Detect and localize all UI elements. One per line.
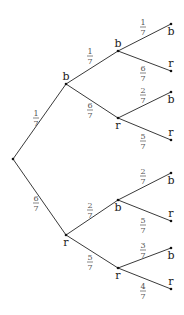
fraction-numerator: 6 bbox=[33, 194, 38, 203]
node-label-rbr: r bbox=[168, 207, 174, 220]
fraction-denominator: 7 bbox=[140, 226, 145, 235]
fraction-numerator: 6 bbox=[140, 64, 145, 73]
node-label-brb: b bbox=[167, 93, 174, 106]
fraction-numerator: 6 bbox=[87, 101, 92, 110]
probability-fraction-brb: 27 bbox=[140, 86, 146, 105]
node-label-r1: r bbox=[63, 236, 69, 249]
node-label-rb: b bbox=[114, 201, 121, 214]
node-dot-rrr bbox=[170, 288, 173, 291]
probability-fraction-rbr: 57 bbox=[140, 216, 146, 235]
probability-fraction-rb: 27 bbox=[87, 201, 93, 220]
probability-fraction-b1: 17 bbox=[33, 109, 39, 128]
probability-fraction-rr: 57 bbox=[87, 253, 93, 272]
fraction-numerator: 2 bbox=[140, 167, 145, 176]
node-dot-bb bbox=[117, 50, 120, 53]
root-node-dot bbox=[12, 158, 15, 161]
fraction-numerator: 2 bbox=[87, 201, 92, 210]
fraction-denominator: 7 bbox=[87, 263, 92, 272]
node-label-bb: b bbox=[114, 37, 121, 50]
node-label-b1: b bbox=[62, 70, 69, 83]
fraction-denominator: 7 bbox=[33, 119, 38, 128]
fraction-numerator: 1 bbox=[87, 47, 92, 56]
fraction-numerator: 5 bbox=[140, 132, 145, 141]
fraction-denominator: 7 bbox=[33, 204, 38, 213]
tree-node-labels: brbrbrbrbrbrbr bbox=[62, 25, 174, 288]
fraction-numerator: 1 bbox=[140, 18, 145, 27]
fraction-numerator: 1 bbox=[33, 109, 38, 118]
fraction-denominator: 7 bbox=[87, 111, 92, 120]
node-label-bbr: r bbox=[168, 57, 174, 70]
node-dot-rbr bbox=[170, 220, 173, 223]
probability-fraction-rbb: 27 bbox=[140, 167, 146, 186]
probability-tree-diagram: 1767176727571767275727573747 brbrbrbrbrb… bbox=[0, 0, 184, 315]
node-label-br: r bbox=[115, 119, 121, 132]
node-label-rrb: b bbox=[167, 249, 174, 262]
probability-fraction-r1: 67 bbox=[33, 194, 39, 213]
node-dot-bbr bbox=[170, 70, 173, 73]
node-label-rr: r bbox=[115, 269, 121, 282]
probability-fraction-bbr: 67 bbox=[140, 64, 146, 83]
fraction-denominator: 7 bbox=[140, 142, 145, 151]
probability-fraction-bbb: 17 bbox=[140, 18, 146, 37]
branch-edge-r1 bbox=[13, 159, 66, 235]
probability-fraction-brr: 57 bbox=[140, 132, 146, 151]
node-dot-brr bbox=[170, 139, 173, 142]
node-label-brr: r bbox=[168, 126, 174, 139]
fraction-denominator: 7 bbox=[140, 74, 145, 83]
fraction-numerator: 3 bbox=[140, 241, 145, 250]
fraction-numerator: 5 bbox=[140, 216, 145, 225]
probability-fraction-bb: 17 bbox=[87, 47, 93, 66]
probability-fraction-rrr: 47 bbox=[140, 282, 146, 301]
node-label-rrr: r bbox=[168, 275, 174, 288]
fraction-denominator: 7 bbox=[140, 251, 145, 260]
fraction-numerator: 5 bbox=[87, 253, 92, 262]
fraction-denominator: 7 bbox=[140, 177, 145, 186]
fraction-denominator: 7 bbox=[87, 211, 92, 220]
fraction-denominator: 7 bbox=[140, 292, 145, 301]
node-dot-b1 bbox=[65, 83, 68, 86]
node-label-rbb: b bbox=[167, 174, 174, 187]
branch-edge-b1 bbox=[13, 84, 66, 159]
branch-probabilities: 1767176727571767275727573747 bbox=[33, 18, 146, 301]
fraction-denominator: 7 bbox=[140, 96, 145, 105]
fraction-denominator: 7 bbox=[87, 57, 92, 66]
probability-fraction-br: 67 bbox=[87, 101, 93, 120]
probability-fraction-rrb: 37 bbox=[140, 241, 146, 260]
fraction-numerator: 2 bbox=[140, 86, 145, 95]
node-label-bbb: b bbox=[167, 25, 174, 38]
fraction-numerator: 4 bbox=[140, 282, 145, 291]
fraction-denominator: 7 bbox=[140, 28, 145, 37]
